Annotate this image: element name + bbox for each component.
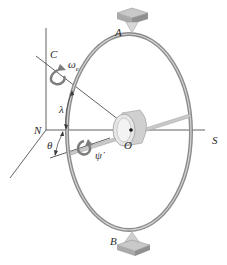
omega-rotation-arrow-icon xyxy=(51,70,65,84)
theta-arrowhead-bottom xyxy=(54,150,58,156)
gyrocompass-diagram: A B C N S O ωe λ θ ψ̇ xyxy=(0,0,227,265)
label-o: O xyxy=(124,140,132,151)
omega-subscript: e xyxy=(76,65,79,73)
center-point-o xyxy=(129,128,133,132)
label-a: A xyxy=(115,27,122,38)
omega-arrowhead-icon xyxy=(57,64,66,71)
label-s: S xyxy=(212,135,218,146)
label-b: B xyxy=(110,236,117,247)
bottom-support-b xyxy=(117,232,150,256)
label-theta: θ xyxy=(47,140,52,151)
omega-symbol: ω xyxy=(68,58,76,70)
psi-dot-arrowhead-icon xyxy=(85,139,93,146)
label-n: N xyxy=(34,125,41,136)
label-lambda: λ xyxy=(59,104,64,115)
label-psi-dot: ψ̇ xyxy=(95,150,102,161)
ground-diagonal-line xyxy=(10,130,46,178)
label-c: C xyxy=(50,49,57,60)
theta-arrowhead-top xyxy=(60,131,64,136)
label-omega-e: ωe xyxy=(68,59,79,73)
